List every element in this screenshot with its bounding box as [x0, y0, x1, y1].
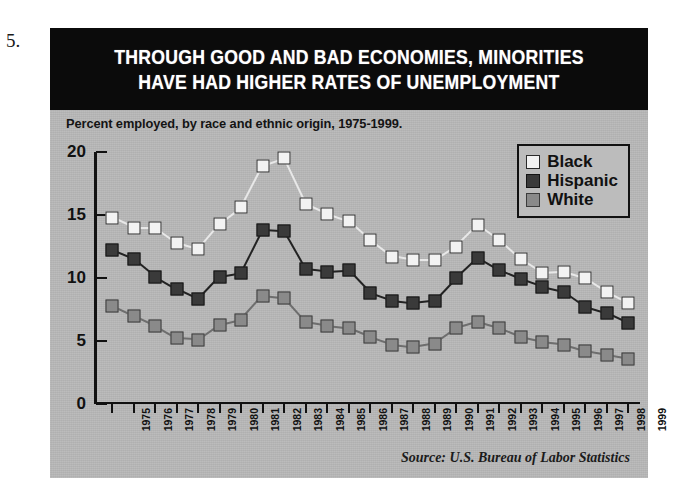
x-tick-label: 1978	[205, 408, 217, 431]
x-tick-label: 1980	[248, 408, 260, 431]
data-point-marker	[600, 348, 613, 361]
data-point-marker	[622, 297, 635, 310]
data-point-marker	[342, 215, 355, 228]
data-point-marker	[600, 307, 613, 320]
x-tick-label: 1989	[441, 408, 453, 431]
y-tick-label: 5	[77, 331, 86, 351]
data-point-marker	[471, 219, 484, 232]
x-tick	[283, 404, 285, 413]
y-tick-label: 0	[77, 394, 86, 414]
data-point-marker	[493, 264, 506, 277]
chart-subtitle: Percent employed, by race and ethnic ori…	[66, 116, 402, 131]
x-tick	[262, 404, 264, 413]
x-tick	[434, 404, 436, 413]
data-point-marker	[213, 270, 226, 283]
source-attribution: Source: U.S. Bureau of Labor Statistics	[401, 450, 630, 466]
data-point-marker	[514, 273, 527, 286]
x-tick	[455, 404, 457, 413]
data-point-marker	[407, 297, 420, 310]
data-point-marker	[299, 316, 312, 329]
x-tick	[197, 404, 199, 413]
data-point-marker	[299, 263, 312, 276]
x-tick-label: 1986	[377, 408, 389, 431]
data-point-marker	[557, 285, 570, 298]
x-tick	[477, 404, 479, 413]
x-tick	[563, 404, 565, 413]
data-point-marker	[149, 319, 162, 332]
x-tick	[412, 404, 414, 413]
data-point-marker	[622, 352, 635, 365]
data-point-marker	[364, 287, 377, 300]
data-point-marker	[579, 272, 592, 285]
data-point-marker	[170, 332, 183, 345]
data-point-marker	[536, 336, 549, 349]
x-tick-label: 1985	[355, 408, 367, 431]
data-point-marker	[192, 293, 205, 306]
data-point-marker	[450, 272, 463, 285]
data-point-marker	[213, 217, 226, 230]
data-point-marker	[106, 211, 119, 224]
data-point-marker	[127, 253, 140, 266]
legend-swatch	[526, 174, 540, 188]
data-point-marker	[278, 152, 291, 165]
data-point-marker	[385, 338, 398, 351]
data-point-marker	[364, 234, 377, 247]
data-point-marker	[428, 254, 441, 267]
x-tick-label: 1979	[226, 408, 238, 431]
y-tick	[96, 340, 107, 343]
data-point-marker	[278, 292, 291, 305]
x-tick-label: 1975	[140, 408, 152, 431]
y-tick	[96, 403, 107, 406]
x-tick	[369, 404, 371, 413]
x-tick	[584, 404, 586, 413]
data-point-marker	[127, 221, 140, 234]
data-point-marker	[149, 221, 162, 234]
data-point-marker	[600, 285, 613, 298]
x-tick	[305, 404, 307, 413]
data-point-marker	[321, 265, 334, 278]
legend-label: Black	[547, 153, 592, 170]
x-tick	[606, 404, 608, 413]
data-point-marker	[471, 251, 484, 264]
chart-legend: BlackHispanicWhite	[517, 144, 630, 218]
data-point-marker	[106, 299, 119, 312]
data-point-marker	[321, 319, 334, 332]
data-point-marker	[256, 159, 269, 172]
x-tick	[541, 404, 543, 413]
x-tick	[498, 404, 500, 413]
data-point-marker	[192, 333, 205, 346]
data-point-marker	[450, 322, 463, 335]
data-point-marker	[579, 300, 592, 313]
y-tick-label: 20	[67, 142, 86, 162]
x-tick-label: 1988	[420, 408, 432, 431]
y-tick	[96, 151, 107, 154]
data-point-marker	[235, 313, 248, 326]
y-tick-label: 15	[67, 205, 86, 225]
x-tick-label: 1990	[463, 408, 475, 431]
data-point-marker	[450, 240, 463, 253]
data-point-marker	[536, 266, 549, 279]
data-point-marker	[106, 244, 119, 257]
legend-item: Hispanic	[526, 172, 618, 189]
data-point-marker	[557, 265, 570, 278]
legend-label: Hispanic	[547, 172, 618, 189]
x-tick	[133, 404, 135, 413]
x-tick-label: 1998	[635, 408, 647, 431]
x-tick-label: 1995	[570, 408, 582, 431]
data-point-marker	[622, 317, 635, 330]
x-tick	[348, 404, 350, 413]
x-tick	[111, 404, 113, 413]
x-tick	[627, 404, 629, 413]
data-point-marker	[278, 225, 291, 238]
x-tick-label: 1987	[398, 408, 410, 431]
data-point-marker	[385, 250, 398, 263]
x-tick-label: 1992	[506, 408, 518, 431]
x-tick-label: 1982	[291, 408, 303, 431]
x-tick-label: 1996	[592, 408, 604, 431]
x-tick-label: 1977	[183, 408, 195, 431]
data-point-marker	[364, 331, 377, 344]
x-tick	[391, 404, 393, 413]
data-point-marker	[149, 270, 162, 283]
data-point-marker	[407, 254, 420, 267]
x-tick	[326, 404, 328, 413]
